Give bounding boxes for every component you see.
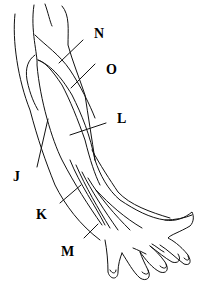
label-o: O bbox=[106, 62, 117, 77]
label-m: M bbox=[61, 244, 74, 259]
label-n: N bbox=[94, 26, 104, 41]
label-j: J bbox=[13, 169, 20, 184]
arm-outline bbox=[14, 4, 193, 280]
label-k: K bbox=[36, 207, 47, 222]
label-l: L bbox=[117, 111, 126, 126]
forearm-diagram: N O L J K M bbox=[0, 0, 200, 290]
